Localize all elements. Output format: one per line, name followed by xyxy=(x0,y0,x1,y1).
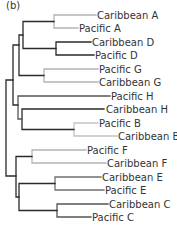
clade-g-branch xyxy=(44,69,98,82)
clade-hhb-branch xyxy=(18,96,110,119)
clade-d-branch xyxy=(56,42,94,55)
leaf-label-caribbean-a: Caribbean A xyxy=(97,10,158,21)
leaf-label-caribbean-b: Caribbean B xyxy=(118,131,177,142)
leaf-label-pacific-h: Pacific H xyxy=(111,91,153,102)
leaf-label-pacific-e: Pacific E xyxy=(105,185,146,196)
clade-hb-branch xyxy=(22,109,104,130)
leaf-label-pacific-c: Pacific C xyxy=(92,212,134,223)
clade-e-branch xyxy=(55,177,104,190)
leaf-label-pacific-b: Pacific B xyxy=(99,118,141,129)
leaf-label-pacific-d: Pacific D xyxy=(95,50,138,61)
clade-ad-branch xyxy=(23,22,56,49)
leaf-label-caribbean-f: Caribbean F xyxy=(107,158,167,169)
root-branch xyxy=(6,80,16,176)
leaf-label-caribbean-c: Caribbean C xyxy=(109,199,170,210)
clade-ec-branch xyxy=(19,184,57,211)
leaf-label-caribbean-h: Caribbean H xyxy=(106,104,168,115)
leaf-label-caribbean-g: Caribbean G xyxy=(99,77,161,88)
leaf-label-caribbean-d: Caribbean D xyxy=(92,37,154,48)
leaf-label-pacific-f: Pacific F xyxy=(87,145,128,156)
leaf-label-pacific-a: Pacific A xyxy=(79,23,121,34)
leaf-label-pacific-g: Pacific G xyxy=(99,64,142,75)
phylogenetic-tree: Caribbean A Pacific A Caribbean D Pacifi… xyxy=(0,0,177,231)
leaf-label-caribbean-e: Caribbean E xyxy=(102,172,163,183)
